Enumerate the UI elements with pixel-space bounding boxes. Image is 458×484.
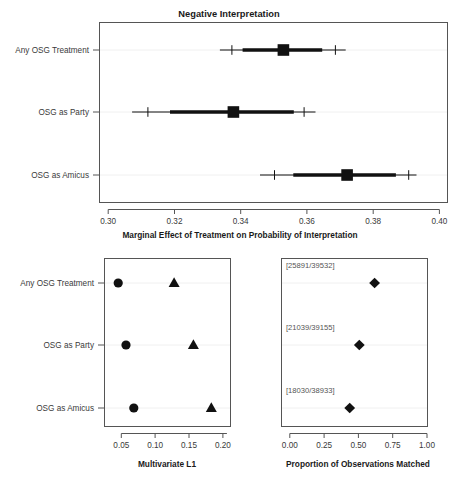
point-estimate-marker [278,44,290,56]
top-ylabel-any-osg-treatment: Any OSG Treatment [15,46,89,55]
br-xaxis-label: Proportion of Observations Matched [286,459,430,469]
bl-ylabel-any-osg-treatment: Any OSG Treatment [20,279,94,288]
bl-xticklabel-2: 0.15 [181,441,197,450]
top-estimate-row-any-osg-treatment [220,44,346,56]
negative-interpretation-panel: Negative Interpretation Any OSG Treatmen… [15,9,448,240]
bl-xticklabel-1: 0.10 [147,441,163,450]
point-estimate-marker [341,169,353,181]
bl-circle-marker-row2 [121,340,130,349]
bl-xticklabel-3: 0.20 [215,441,231,450]
br-diamond-marker-row2 [354,340,365,350]
br-xticklabel-0: 0.00 [282,441,298,450]
top-ylabel-osg-as-amicus: OSG as Amicus [31,171,89,180]
br-annotation-row2: [21039/39155] [286,323,335,332]
bl-triangle-marker-row3 [206,402,217,412]
bl-circle-marker-row3 [129,403,138,412]
top-xticklabel-1: 0.32 [167,217,183,226]
br-xticklabel-4: 1.00 [419,441,435,450]
top-estimate-row-osg-as-amicus [260,169,417,181]
br-xticklabel-1: 0.25 [316,441,332,450]
bl-circle-marker-row1 [114,278,123,287]
bl-xticklabel-0: 0.05 [113,441,129,450]
br-annotation-row1: [25891/39532] [286,261,335,270]
br-plot-box [282,259,428,427]
figure-root: Negative Interpretation Any OSG Treatmen… [0,0,458,484]
bl-xaxis-label: Multivariate L1 [138,459,196,469]
figure-svg: Negative Interpretation Any OSG Treatmen… [0,0,458,484]
bl-ylabel-osg-as-amicus: OSG as Amicus [36,404,94,413]
top-xticklabel-4: 0.38 [365,217,381,226]
br-xticklabel-3: 0.75 [385,441,401,450]
multivariate-l1-panel: Any OSG Treatment OSG as Party OSG as Am… [20,259,231,470]
br-annotation-row3: [18030/38933] [286,386,335,395]
br-xticklabel-2: 0.50 [350,441,366,450]
bl-ylabel-osg-as-party: OSG as Party [43,341,94,350]
br-diamond-marker-row3 [344,403,355,413]
top-xticklabel-5: 0.40 [431,217,447,226]
top-xticklabel-3: 0.36 [299,217,315,226]
top-xticklabel-2: 0.34 [233,217,249,226]
bl-triangle-marker-row1 [169,277,180,287]
top-xticklabel-0: 0.30 [100,217,116,226]
proportion-matched-panel: [25891/39532] [21039/39155] [18030/38933… [282,259,436,470]
br-diamond-marker-row1 [369,278,380,288]
top-panel-title: Negative Interpretation [178,9,280,19]
point-estimate-marker [228,106,240,118]
top-estimate-row-osg-as-party [132,106,315,118]
top-xaxis-label: Marginal Effect of Treatment on Probabil… [122,230,357,240]
top-ylabel-osg-as-party: OSG as Party [38,108,89,117]
bl-triangle-marker-row2 [188,339,199,349]
